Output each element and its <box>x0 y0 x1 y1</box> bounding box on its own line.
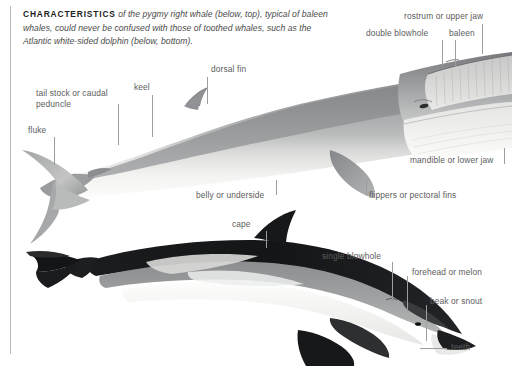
leader-single-blowhole <box>392 262 393 302</box>
label-belly-or-underside: belly or underside <box>196 190 264 201</box>
leader-flippers <box>366 178 367 195</box>
label-dorsal-fin: dorsal fin <box>211 64 246 75</box>
leader-fluke <box>54 137 55 165</box>
label-teeth: teeth <box>451 342 470 353</box>
label-flippers-or-pectoral-fins: flippers or pectoral fins <box>369 190 456 201</box>
label-double-blowhole: double blowhole <box>366 28 428 39</box>
leader-dorsal-fin <box>207 77 208 104</box>
leader-keel <box>152 95 153 137</box>
leader-rostrum <box>482 24 483 54</box>
intro-lead-word: CHARACTERISTICS <box>23 9 116 19</box>
label-mandible-or-lower-jaw: mandible or lower jaw <box>410 155 494 166</box>
leader-cape <box>266 231 267 248</box>
label-baleen: baleen <box>449 28 475 39</box>
intro-paragraph: CHARACTERISTICS of the pygmy right whale… <box>23 8 339 49</box>
leader-forehead <box>407 276 408 312</box>
leader-baleen <box>455 40 456 67</box>
atlantic-white-sided-dolphin-illustration <box>0 0 512 366</box>
label-rostrum-or-upper-jaw: rostrum or upper jaw <box>404 11 483 22</box>
leader-teeth <box>420 348 447 349</box>
label-tail-stock-or-caudal-peduncle: tail stock or caudal peduncle <box>36 88 122 111</box>
leader-double-blowhole <box>442 40 443 66</box>
leader-beak <box>426 305 427 341</box>
leader-mandible <box>504 148 505 164</box>
leader-belly <box>276 180 277 195</box>
label-beak-or-snout: beak or snout <box>430 296 482 307</box>
left-margin-rule <box>10 6 11 354</box>
label-keel: keel <box>134 82 150 93</box>
pygmy-right-whale-illustration <box>0 0 512 366</box>
label-fluke: fluke <box>28 125 46 136</box>
label-single-blowhole: single blowhole <box>322 251 381 262</box>
label-forehead-or-melon: forehead or melon <box>412 267 482 278</box>
illustration-page: CHARACTERISTICS of the pygmy right whale… <box>0 0 512 366</box>
label-cape: cape <box>232 219 251 230</box>
